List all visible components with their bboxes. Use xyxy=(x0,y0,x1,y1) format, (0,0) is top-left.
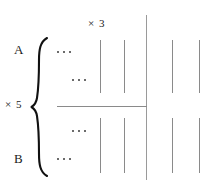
row-multiplier-label: × 5 xyxy=(5,99,22,110)
dot xyxy=(57,51,59,53)
tick-lower-3 xyxy=(172,118,173,173)
dot xyxy=(69,51,71,53)
dot xyxy=(69,158,71,160)
row-label-b: B xyxy=(14,152,23,165)
dot xyxy=(57,158,59,160)
ellipsis-top-outer xyxy=(57,51,71,53)
dot xyxy=(72,130,74,132)
column-multiplier-label: × 3 xyxy=(88,18,105,29)
dot xyxy=(63,51,65,53)
dot xyxy=(78,79,80,81)
ellipsis-bottom-outer xyxy=(57,158,71,160)
dot xyxy=(72,79,74,81)
matrix-schematic-figure: × 3 A × 5 B xyxy=(0,0,214,195)
dot xyxy=(78,130,80,132)
tick-lower-1 xyxy=(100,118,101,173)
dot xyxy=(63,158,65,160)
tick-upper-1 xyxy=(100,40,101,93)
dot xyxy=(84,79,86,81)
ellipsis-bottom-inner xyxy=(72,130,86,132)
dot xyxy=(84,130,86,132)
row-label-a: A xyxy=(14,43,24,56)
row-group-brace-icon xyxy=(30,36,52,178)
tick-lower-2 xyxy=(124,118,125,173)
tick-upper-4 xyxy=(199,40,200,93)
tick-lower-4 xyxy=(199,118,200,173)
ellipsis-top-inner xyxy=(72,79,86,81)
vertical-divider xyxy=(146,15,147,180)
horizontal-divider xyxy=(57,106,147,107)
tick-upper-3 xyxy=(172,40,173,93)
tick-upper-2 xyxy=(124,40,125,93)
